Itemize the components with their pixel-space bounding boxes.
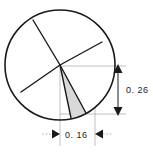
arrow-left-icon — [95, 130, 103, 139]
arrow-right-icon — [52, 130, 60, 139]
radius-upper-right — [60, 42, 102, 65]
horizontal-dimension-label: 0. 16 — [65, 130, 88, 140]
radii-group — [21, 20, 102, 118]
figure-canvas: 0. 26 0. 16 — [0, 0, 153, 152]
vertical-dimension: 0. 26 — [114, 64, 149, 116]
radius-lower-left — [21, 65, 60, 92]
arrow-down-icon — [114, 107, 123, 116]
geometry-figure: 0. 26 0. 16 — [0, 0, 153, 152]
vertical-dimension-label: 0. 26 — [126, 85, 149, 95]
horizontal-dimension: 0. 16 — [42, 130, 113, 141]
radius-upper-left — [33, 20, 60, 65]
